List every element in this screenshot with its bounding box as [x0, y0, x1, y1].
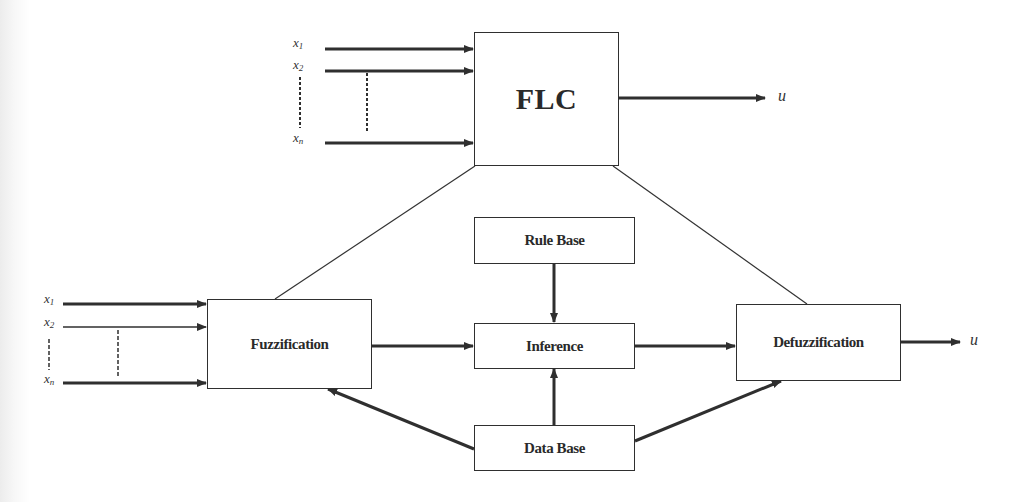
flc-input-label-x2: x2 [293, 58, 303, 73]
defuzzification-label: Defuzzification [773, 334, 864, 351]
fuzzification-block: Fuzzification [207, 299, 372, 389]
line-flc-to-fuzzification [275, 166, 475, 299]
defuzzification-block: Defuzzification [736, 304, 901, 381]
line-flc-to-defuzzification [613, 166, 807, 304]
inference-block: Inference [474, 323, 635, 369]
var-subscript: 2 [50, 320, 55, 330]
flc-output-label-u: u [778, 87, 786, 105]
flc-block: FLC [474, 32, 619, 166]
rule-base-block: Rule Base [474, 217, 635, 264]
flc-input-label-xn: xn [293, 131, 303, 146]
defuzz-output-label-u: u [970, 331, 978, 349]
data-base-block: Data Base [474, 425, 635, 471]
var-subscript: n [50, 377, 55, 387]
fuzzification-label: Fuzzification [250, 336, 328, 353]
fuzzification-input-arrows [49, 304, 206, 383]
arrow-database-to-fuzzification [328, 389, 474, 449]
arrow-database-to-defuzzification [635, 381, 781, 441]
fuzz-input-label-x1: x1 [44, 292, 54, 307]
flc-input-arrows [300, 49, 473, 143]
var-subscript: 2 [299, 63, 304, 73]
data-base-label: Data Base [524, 440, 585, 457]
flc-input-label-x1: x1 [293, 36, 303, 51]
var-subscript: 1 [299, 41, 304, 51]
flc-label: FLC [516, 82, 578, 116]
fuzz-input-label-xn: xn [44, 372, 54, 387]
var-subscript: 1 [50, 297, 55, 307]
inference-label: Inference [526, 338, 583, 355]
var-subscript: n [299, 136, 304, 146]
fuzz-input-label-x2: x2 [44, 315, 54, 330]
rule-base-label: Rule Base [524, 232, 584, 249]
